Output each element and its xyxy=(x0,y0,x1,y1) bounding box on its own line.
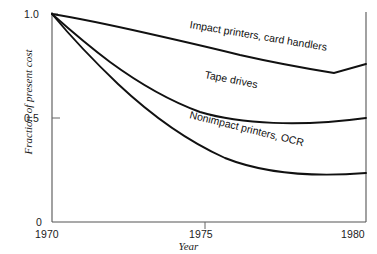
series-line-nonimpact-printers xyxy=(52,14,366,175)
x-axis-title: Year xyxy=(0,240,377,252)
y-tick-label-1.0: 1.0 xyxy=(24,8,39,20)
y-tick-label-0: 0 xyxy=(36,216,42,228)
x-tick-label-1980: 1980 xyxy=(341,228,365,240)
chart-figure: 1.0 0.5 0 1970 1975 1980 Fraction of pre… xyxy=(0,0,377,254)
x-tick-label-1975: 1975 xyxy=(189,228,213,240)
y-axis-title: Fraction of present cost xyxy=(22,27,34,177)
x-tick-label-1970: 1970 xyxy=(35,228,59,240)
chart-plot-area xyxy=(0,0,377,254)
